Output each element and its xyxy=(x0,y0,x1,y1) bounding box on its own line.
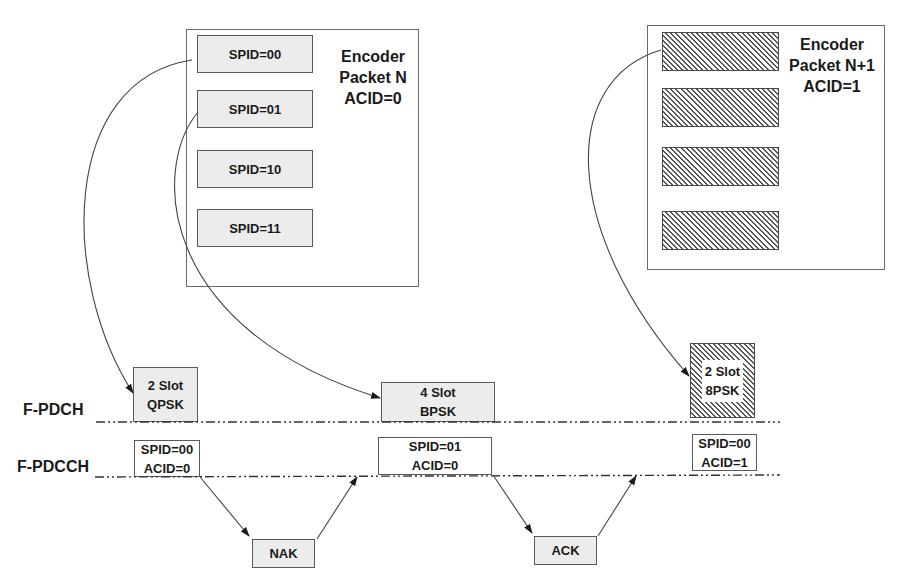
arrow-spid00-to-pdch-tx1 xyxy=(84,60,192,393)
arrow-to-ack xyxy=(493,475,532,533)
arrow-spid01-to-pdch-tx2 xyxy=(175,112,380,398)
arrow-to-nak xyxy=(200,477,249,536)
connector-overlay xyxy=(0,0,901,582)
timeline-f-pdcch xyxy=(95,475,780,477)
arrow-ack-to-next xyxy=(598,476,636,536)
arrow-n1sub1-to-pdch-tx3 xyxy=(588,50,689,376)
arrow-nak-to-retx xyxy=(317,477,357,539)
